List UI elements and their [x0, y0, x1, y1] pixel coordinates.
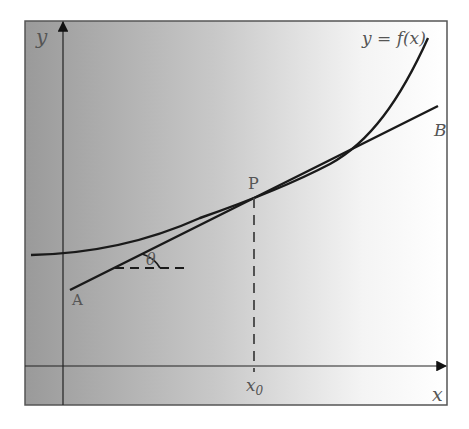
point-b-label: B [433, 120, 447, 140]
tangent-line-diagram: y x y = f(x) B P A θ x0 [0, 0, 469, 429]
plot-frame [25, 21, 447, 405]
point-a-label: A [71, 291, 83, 309]
theta-label: θ [146, 250, 156, 269]
y-axis-label: y [35, 25, 48, 49]
function-label: y = f(x) [361, 28, 426, 48]
x-axis-label: x [432, 383, 443, 405]
point-p-label: P [248, 174, 259, 193]
